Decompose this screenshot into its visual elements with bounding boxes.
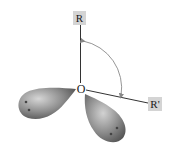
lone-pair-lobe-left <box>18 88 76 119</box>
electron-dot <box>116 127 119 130</box>
electron-dot <box>25 101 28 104</box>
diagram-canvas <box>0 0 176 152</box>
substituent-r-text: R <box>76 12 83 24</box>
substituent-rprime-text: R' <box>150 98 159 110</box>
angle-arc <box>83 41 122 96</box>
substituent-r-label: R <box>73 11 86 25</box>
electron-dot <box>28 109 31 112</box>
oxygen-text: O <box>77 82 86 96</box>
substituent-rprime-label: R' <box>148 97 162 111</box>
electron-dot <box>110 133 113 136</box>
lone-pair-lobe-right <box>85 94 126 142</box>
orbital-diagram: R R' O <box>0 0 176 152</box>
central-atom-oxygen: O <box>76 83 86 94</box>
